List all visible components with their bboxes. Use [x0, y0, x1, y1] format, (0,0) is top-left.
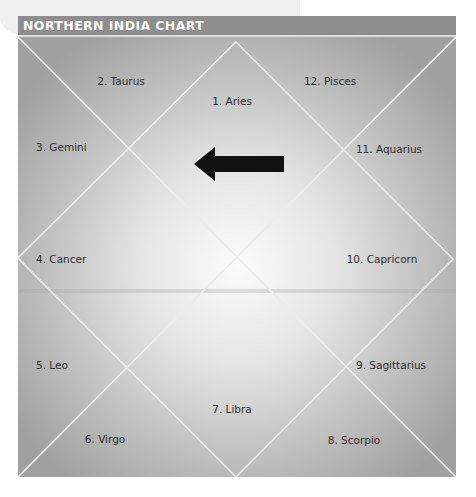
house-9-label: 9. Sagittarius	[356, 359, 426, 371]
house-7-label: 7. Libra	[212, 403, 252, 415]
house-10-label: 10. Capricorn	[347, 253, 418, 265]
house-1-label: 1. Aries	[212, 95, 252, 107]
house-3-label: 3. Gemini	[36, 141, 87, 153]
house-5-label: 5. Leo	[36, 359, 68, 371]
arrow-left-icon	[194, 147, 284, 181]
house-2-label: 2. Taurus	[97, 75, 145, 87]
house-11-label: 11. Aquarius	[356, 143, 422, 155]
north-indian-chart: 1. Aries 2. Taurus 3. Gemini 4. Cancer 5…	[18, 37, 456, 477]
chart-header: NORTHERN INDIA CHART	[18, 16, 456, 37]
house-4-label: 4. Cancer	[36, 253, 86, 265]
house-6-label: 6. Virgo	[85, 433, 125, 445]
house-12-label: 12. Pisces	[304, 75, 356, 87]
house-8-label: 8. Scorpio	[328, 434, 381, 446]
chart-title: NORTHERN INDIA CHART	[23, 18, 204, 33]
